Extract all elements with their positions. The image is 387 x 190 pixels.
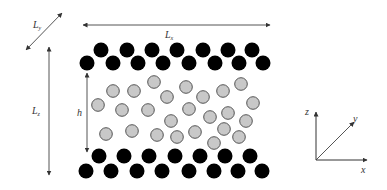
fluid-atom: [116, 104, 129, 117]
fluid-atom: [235, 78, 248, 91]
wall-atom: [182, 164, 197, 179]
z-axis-label: z: [304, 106, 309, 117]
wall-atom: [207, 164, 222, 179]
top-wall-atoms: [80, 43, 271, 71]
lz-label: Lz: [31, 105, 41, 117]
x-axis-label: x: [360, 164, 366, 175]
wall-atom: [255, 164, 270, 179]
fluid-atom: [233, 131, 246, 144]
y-axis-label: y: [352, 113, 358, 124]
fluid-atom: [100, 128, 113, 141]
wall-atom: [155, 164, 170, 179]
coordinate-axes: z y x: [304, 106, 367, 175]
wall-atom: [145, 43, 160, 58]
fluid-atom: [107, 85, 120, 98]
fluid-atom: [148, 76, 161, 89]
wall-atom: [156, 56, 171, 71]
fluid-atom: [247, 97, 260, 110]
wall-atom: [142, 149, 157, 164]
wall-atom: [94, 43, 109, 58]
wall-atom: [79, 164, 94, 179]
fluid-atom: [126, 125, 139, 138]
fluid-atom: [165, 115, 178, 128]
h-label: h: [77, 107, 82, 118]
wall-atom: [221, 43, 236, 58]
wall-atom: [170, 43, 185, 58]
wall-atom: [120, 43, 135, 58]
wall-atom: [208, 56, 223, 71]
fluid-atom: [197, 91, 210, 104]
fluid-atom: [180, 81, 193, 94]
wall-atom: [104, 164, 119, 179]
y-axis: [316, 122, 354, 160]
wall-atom: [196, 43, 211, 58]
fluid-atom: [142, 104, 155, 117]
wall-atom: [256, 56, 271, 71]
wall-atom: [232, 56, 247, 71]
ly-dimension-arrow: [26, 13, 62, 50]
wall-atom: [245, 43, 260, 58]
wall-atom: [80, 56, 95, 71]
wall-atom: [131, 56, 146, 71]
wall-atom: [193, 149, 208, 164]
lx-label: Lx: [164, 29, 174, 41]
fluid-atoms: [92, 76, 260, 150]
wall-atom: [106, 56, 121, 71]
wall-atom: [231, 164, 246, 179]
fluid-atom: [128, 85, 141, 98]
confined-fluid-diagram: Ly Lx Lz h z y x: [0, 0, 387, 190]
wall-atom: [130, 164, 145, 179]
fluid-atom: [222, 107, 235, 120]
fluid-atom: [171, 131, 184, 144]
wall-atom: [182, 56, 197, 71]
wall-atom: [92, 149, 107, 164]
ly-label: Ly: [32, 19, 42, 31]
fluid-atom: [208, 137, 221, 150]
wall-atom: [243, 149, 258, 164]
fluid-atom: [92, 99, 105, 112]
fluid-atom: [204, 111, 217, 124]
fluid-atom: [189, 126, 202, 139]
fluid-atom: [217, 85, 230, 98]
wall-atom: [117, 149, 132, 164]
fluid-atom: [161, 91, 174, 104]
wall-atom: [218, 149, 233, 164]
fluid-atom: [240, 115, 253, 128]
fluid-atom: [183, 103, 196, 116]
fluid-atom: [151, 129, 164, 142]
wall-atom: [168, 149, 183, 164]
fluid-atom: [218, 123, 231, 136]
bottom-wall-atoms: [79, 149, 270, 179]
